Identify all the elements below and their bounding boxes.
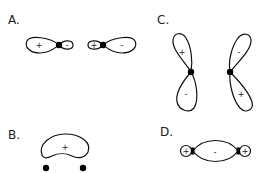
large-lobe xyxy=(103,38,136,53)
panel-d-label: D. xyxy=(160,125,173,139)
lower-lobe-sign: - xyxy=(185,90,188,99)
left-sign: + xyxy=(183,147,190,156)
panel-c: C. + - - + xyxy=(157,13,252,111)
panel-c-left-orbital: + - xyxy=(173,34,197,111)
panel-a-orbital-2: + - xyxy=(88,38,136,53)
center-sign: - xyxy=(214,148,217,157)
nucleus xyxy=(56,42,62,48)
nucleus xyxy=(100,42,106,48)
panel-b-label: B. xyxy=(8,128,20,142)
upper-lobe-sign: + xyxy=(179,48,186,57)
right-sign: + xyxy=(242,147,249,156)
large-lobe-sign: - xyxy=(121,41,124,50)
panel-c-label: C. xyxy=(157,13,169,27)
nucleus xyxy=(188,69,194,75)
lower-lobe-sign: + xyxy=(238,90,245,99)
panel-b: B. + xyxy=(8,128,89,171)
panel-a-label: A. xyxy=(8,13,20,27)
panel-d: D. + - + xyxy=(160,125,251,162)
orbital-diagram: A. + - + - B. + C. + - xyxy=(0,0,266,173)
large-lobe xyxy=(26,38,59,53)
nucleus-left xyxy=(191,148,195,155)
nucleus-right xyxy=(80,165,86,171)
panel-c-right-orbital: - + xyxy=(227,34,253,111)
large-lobe-sign: + xyxy=(36,41,43,50)
panel-a: A. + - + - xyxy=(8,13,136,53)
nucleus-right xyxy=(237,148,241,155)
small-lobe-sign: + xyxy=(91,41,98,50)
nucleus xyxy=(227,69,233,75)
lobe-sign: + xyxy=(62,143,69,152)
panel-a-orbital-1: + - xyxy=(26,38,73,53)
upper-lobe-sign: - xyxy=(238,48,241,57)
nucleus-left xyxy=(43,165,49,171)
small-lobe-sign: - xyxy=(66,41,69,50)
